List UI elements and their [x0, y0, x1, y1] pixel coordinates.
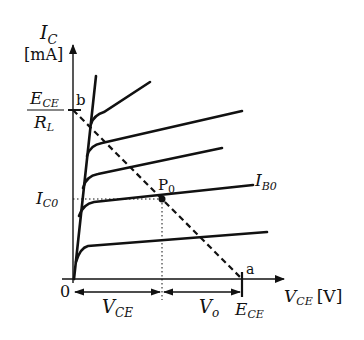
y-intercept-denominator: RL: [33, 112, 54, 134]
point-a-label: a: [246, 261, 254, 277]
operating-point-label: P0: [158, 176, 175, 196]
y-axis-label: IC: [39, 21, 58, 47]
load-line-diagram: IC [mA] ECE RL b IC0 P0 IB0 0 VCE Vo a E…: [0, 0, 364, 340]
operating-point-marker: [159, 196, 166, 203]
curve-3-ib0: [83, 148, 222, 188]
point-b-label: b: [76, 91, 86, 109]
characteristic-curves: [74, 76, 267, 279]
x-intercept-label: ECE: [234, 299, 264, 321]
vce-dimension-label: VCE: [102, 296, 133, 320]
y-axis-unit: [mA]: [24, 45, 63, 64]
curve-5: [91, 82, 150, 124]
vo-dimension-label: Vo: [199, 296, 219, 320]
ic0-label: IC0: [35, 188, 58, 210]
y-intercept-numerator: ECE: [29, 88, 59, 110]
origin-label: 0: [60, 282, 70, 301]
x-axis-label: VCE[V]: [284, 286, 342, 308]
ib0-label: IB0: [254, 170, 277, 193]
curve-1: [76, 232, 267, 262]
